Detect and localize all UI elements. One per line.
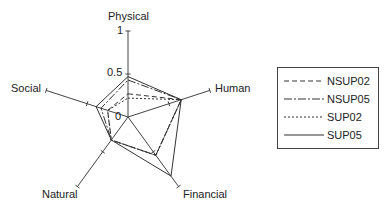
dash-dot-line-icon [284, 95, 324, 103]
legend-item-sup02: SUP02 [284, 110, 362, 124]
radar-series [96, 77, 181, 177]
legend: NSUP02 NSUP05 SUP02 SUP05 [277, 67, 379, 149]
solid-line-icon [284, 131, 324, 139]
series-sup05 [96, 77, 181, 177]
axis-label-social: Social [11, 82, 41, 94]
axis-tick [151, 150, 155, 153]
axis-tick [177, 185, 181, 188]
tick-label-0-5: 0.5 [107, 66, 122, 78]
legend-item-sup05: SUP05 [284, 128, 362, 142]
tick-label-1: 1 [117, 24, 123, 36]
axis-label-human: Human [215, 82, 250, 94]
tick-label-0: 0 [115, 110, 121, 122]
radar-axes [45, 31, 210, 188]
legend-item-nsup02: NSUP02 [284, 74, 370, 88]
axis-label-physical: Physical [108, 10, 149, 22]
dashed-line-icon [284, 77, 324, 85]
axis-tick [101, 150, 105, 153]
legend-item-nsup05: NSUP05 [284, 92, 370, 106]
dotted-line-icon [284, 113, 324, 121]
axis-label-financial: Financial [183, 188, 227, 200]
series-sup02 [108, 98, 182, 155]
axis-label-natural: Natural [42, 188, 77, 200]
